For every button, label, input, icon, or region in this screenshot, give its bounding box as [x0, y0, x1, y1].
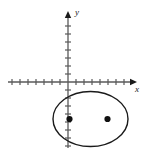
y-axis-label: y: [74, 7, 79, 17]
ellipse-diagram-figure: x y: [0, 0, 146, 154]
x-axis-label: x: [134, 84, 139, 94]
right-focus: [104, 116, 110, 122]
figure-canvas: x y: [0, 0, 146, 154]
left-focus: [66, 116, 72, 122]
